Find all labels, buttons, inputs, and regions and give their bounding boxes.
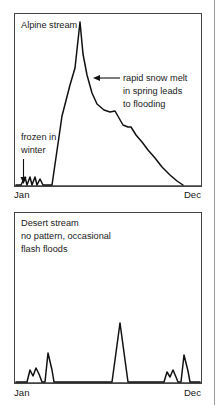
- figure-container: Alpine stream rapid snow melt in spring …: [0, 0, 221, 405]
- frozen-winter-annotation: frozen in winter: [20, 132, 56, 184]
- alpine-panel-title: Alpine stream: [21, 20, 78, 30]
- frozen-winter-annotation-line-1: frozen in: [21, 132, 56, 142]
- desert-panel-title-line-1: Desert stream: [21, 218, 79, 228]
- alpine-x-axis-start-label: Jan: [14, 189, 29, 200]
- desert-panel-title-line-2: no pattern, occasional: [21, 231, 111, 241]
- frozen-winter-annotation-line-2: winter: [20, 145, 46, 155]
- desert-stream-panel: Desert stream no pattern, occasional fla…: [14, 213, 202, 399]
- snow-melt-annotation-line-3: to flooding: [123, 99, 165, 109]
- desert-x-axis-start-label: Jan: [14, 387, 29, 398]
- snow-melt-arrow-head: [93, 75, 100, 81]
- desert-discharge-line: [16, 323, 200, 382]
- alpine-x-axis-end-label: Dec: [184, 189, 201, 200]
- desert-panel-title-line-3: flash floods: [21, 244, 68, 254]
- alpine-panel-frame: [15, 14, 202, 187]
- snow-melt-annotation: rapid snow melt in spring leads to flood…: [93, 73, 188, 109]
- snow-melt-annotation-line-2: in spring leads: [123, 86, 183, 96]
- snow-melt-annotation-line-1: rapid snow melt: [123, 73, 188, 83]
- desert-x-axis-end-label: Dec: [184, 387, 201, 398]
- alpine-stream-panel: Alpine stream rapid snow melt in spring …: [14, 14, 202, 201]
- stream-hydrograph-figure: Alpine stream rapid snow melt in spring …: [0, 0, 221, 405]
